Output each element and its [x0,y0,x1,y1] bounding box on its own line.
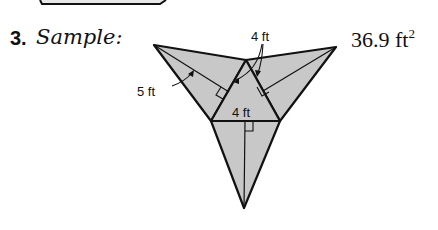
answer-value: 36.9 ft [351,27,408,52]
problem-number: 3. [10,27,27,50]
side-length-label: 4 ft [251,29,269,44]
answer-text: 36.9 ft2 [351,26,415,53]
previous-figure-edge [40,0,166,4]
base-edge-label: 4 ft [232,105,250,120]
slant-height-label: 5 ft [137,84,155,99]
bottom-triangle-face [211,121,280,208]
sample-label: Sample: [36,25,122,49]
answer-exponent: 2 [408,26,415,41]
